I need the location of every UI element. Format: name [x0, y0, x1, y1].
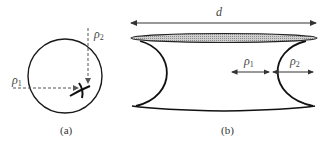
diagram-canvas: ρ1 ρ2 (a) d ρ1 ρ2 (b) — [0, 0, 329, 145]
rho2-label-a: ρ2 — [93, 27, 104, 42]
d-label: d — [216, 5, 223, 19]
caption-a: (a) — [60, 124, 73, 137]
panel-a: ρ1 ρ2 (a) — [11, 27, 104, 137]
rho2-label-b: ρ2 — [289, 54, 300, 69]
circle-outline — [28, 39, 102, 113]
top-hatched-surface — [131, 34, 317, 43]
left-concave-wall — [136, 41, 167, 106]
right-concave-wall — [278, 41, 313, 106]
caption-b: (b) — [221, 124, 234, 137]
bottom-edge — [132, 106, 315, 111]
panel-b: d ρ1 ρ2 (b) — [131, 5, 317, 137]
rho1-label-b: ρ1 — [243, 54, 254, 69]
rho1-label-a: ρ1 — [11, 73, 22, 88]
